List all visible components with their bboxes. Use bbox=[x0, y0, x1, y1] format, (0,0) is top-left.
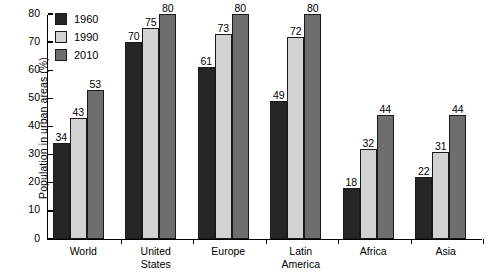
legend-item: 1990 bbox=[55, 29, 98, 45]
bar-value-label: 80 bbox=[234, 2, 246, 14]
x-tick-mark bbox=[338, 239, 339, 244]
category-label-asia: Asia bbox=[398, 245, 492, 258]
bar-value-label: 18 bbox=[345, 176, 357, 188]
bar-africa-1990: 32 bbox=[360, 149, 377, 239]
x-tick-mark bbox=[193, 239, 194, 244]
bar-value-label: 61 bbox=[200, 55, 212, 67]
bar-chart: Population in urban areas (%) 0102030405… bbox=[0, 0, 492, 278]
legend-item: 1960 bbox=[55, 11, 98, 27]
x-tick-mark bbox=[266, 239, 267, 244]
bar-united-states-1960: 70 bbox=[125, 42, 142, 239]
y-tick-label: 0 bbox=[10, 232, 40, 244]
bar-value-label: 44 bbox=[379, 103, 391, 115]
plot-area: 01020304050607080 3443537075806173804972… bbox=[47, 15, 482, 240]
y-tick-label: 50 bbox=[10, 91, 40, 103]
bar-value-label: 32 bbox=[362, 137, 374, 149]
bar-asia-1990: 31 bbox=[432, 152, 449, 239]
y-tick-label: 10 bbox=[10, 203, 40, 215]
bar-value-label: 72 bbox=[290, 25, 302, 37]
x-tick-mark bbox=[121, 239, 122, 244]
y-tick-mark bbox=[48, 98, 53, 99]
y-tick-mark bbox=[48, 126, 53, 127]
bar-value-label: 31 bbox=[435, 140, 447, 152]
bar-value-label: 44 bbox=[452, 103, 464, 115]
bar-value-label: 80 bbox=[162, 2, 174, 14]
category-label-line: Asia bbox=[398, 245, 492, 258]
bar-value-label: 70 bbox=[128, 30, 140, 42]
bar-asia-2010: 44 bbox=[449, 115, 466, 239]
bar-europe-1990: 73 bbox=[215, 34, 232, 239]
bar-latin-america-1960: 49 bbox=[270, 101, 287, 239]
legend-label-2010: 2010 bbox=[74, 49, 98, 61]
y-tick-label: 80 bbox=[10, 7, 40, 19]
bar-latin-america-1990: 72 bbox=[287, 37, 304, 240]
x-tick-mark bbox=[411, 239, 412, 244]
bar-latin-america-2010: 80 bbox=[304, 14, 321, 239]
category-label-line: States bbox=[108, 258, 204, 271]
bar-value-label: 75 bbox=[145, 16, 157, 28]
bar-value-label: 80 bbox=[307, 2, 319, 14]
bar-value-label: 34 bbox=[55, 131, 67, 143]
bar-united-states-1990: 75 bbox=[142, 28, 159, 239]
legend-item: 2010 bbox=[55, 47, 98, 63]
bar-africa-1960: 18 bbox=[343, 188, 360, 239]
y-tick-mark bbox=[48, 70, 53, 71]
bar-value-label: 73 bbox=[217, 22, 229, 34]
bar-europe-2010: 80 bbox=[232, 14, 249, 239]
bar-world-1960: 34 bbox=[53, 143, 70, 239]
legend-swatch-1990 bbox=[55, 31, 67, 43]
bar-europe-1960: 61 bbox=[198, 67, 215, 239]
bar-value-label: 49 bbox=[273, 89, 285, 101]
bar-value-label: 22 bbox=[418, 165, 430, 177]
y-tick-label: 70 bbox=[10, 35, 40, 47]
legend-label-1960: 1960 bbox=[74, 13, 98, 25]
y-tick-mark bbox=[48, 13, 53, 14]
bar-united-states-2010: 80 bbox=[159, 14, 176, 239]
bar-asia-1960: 22 bbox=[415, 177, 432, 239]
bar-world-2010: 53 bbox=[87, 90, 104, 239]
y-tick-label: 60 bbox=[10, 63, 40, 75]
y-tick-label: 40 bbox=[10, 119, 40, 131]
category-label-line: America bbox=[253, 258, 349, 271]
bar-africa-2010: 44 bbox=[377, 115, 394, 239]
y-tick-mark bbox=[48, 41, 53, 42]
legend-swatch-1960 bbox=[55, 13, 67, 25]
y-tick-label: 20 bbox=[10, 175, 40, 187]
x-tick-mark bbox=[483, 239, 484, 244]
bar-world-1990: 43 bbox=[70, 118, 87, 239]
y-tick-label: 30 bbox=[10, 147, 40, 159]
legend: 1960 1990 2010 bbox=[55, 11, 98, 65]
legend-swatch-2010 bbox=[55, 49, 67, 61]
bar-value-label: 43 bbox=[72, 106, 84, 118]
legend-label-1990: 1990 bbox=[74, 31, 98, 43]
bar-value-label: 53 bbox=[89, 78, 101, 90]
